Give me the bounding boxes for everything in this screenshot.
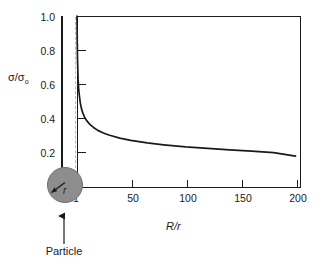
x-tick-label-100: 100	[173, 193, 203, 204]
y-axis-title-numerator: σ	[8, 71, 15, 83]
series-line-stress-ratio	[77, 16, 296, 156]
y-axis-title-denominator: σ	[18, 71, 25, 83]
figure-root: 1.0 0.8 0.6 0.4 0.2 σ/σo 1 50 100 150 20…	[0, 0, 316, 269]
x-axis-title: R/r	[166, 221, 181, 232]
y-axis-spine	[61, 16, 63, 172]
particle-callout-arrow-icon	[56, 211, 72, 245]
y-tick-label-5: 0.2	[24, 148, 55, 159]
y-tick-label-2: 0.8	[24, 46, 55, 57]
data-curve-layer	[77, 16, 303, 190]
x-axis-title-numerator: R	[166, 220, 174, 232]
x-tick-label-50: 50	[119, 193, 147, 204]
particle-caption: Particle	[24, 246, 104, 257]
y-tick-label-4: 0.4	[24, 114, 55, 125]
x-tick-label-150: 150	[228, 193, 258, 204]
x-tick-label-200: 200	[283, 193, 313, 204]
x-axis-title-denominator: r	[177, 220, 181, 232]
particle-surface-guide-line	[75, 17, 76, 188]
y-tick-label-1: 1.0	[24, 12, 55, 23]
particle-radius-label: r	[63, 186, 66, 196]
y-axis-title: σ/σo	[8, 72, 29, 85]
y-axis-title-subscript: o	[25, 78, 29, 85]
